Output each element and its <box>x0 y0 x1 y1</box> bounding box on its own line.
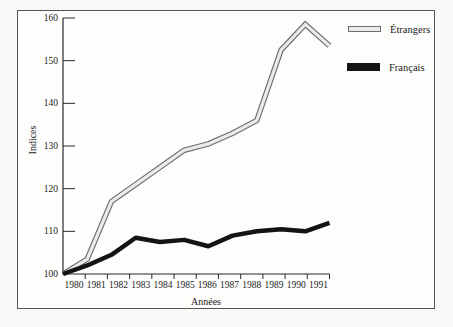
y-tick-label: 100 <box>44 269 59 279</box>
y-tick-label: 130 <box>44 141 59 151</box>
legend-label-etrangers: Étrangers <box>390 24 430 35</box>
x-tick-label: 1988 <box>242 280 261 290</box>
chart-canvas: 1001101201301401501601980198119821983198… <box>0 0 453 327</box>
x-axis-title: Années <box>191 296 221 307</box>
x-tick-label: 1984 <box>153 280 172 290</box>
series-line-francais <box>63 223 330 274</box>
x-tick-label: 1983 <box>131 280 150 290</box>
legend-label-francais: Français <box>389 62 425 73</box>
x-tick-label: 1991 <box>309 280 328 290</box>
y-tick-label: 120 <box>44 184 59 194</box>
x-tick-label: 1985 <box>176 280 195 290</box>
legend-item-francais: Français <box>347 60 425 74</box>
chart-figure: 1001101201301401501601980198119821983198… <box>0 0 453 327</box>
series-line-etrangers-outline <box>63 24 330 274</box>
x-tick-label: 1989 <box>264 280 283 290</box>
y-axis-title: Indices <box>27 126 38 155</box>
x-tick-label: 1982 <box>109 280 128 290</box>
x-tick-label: 1986 <box>198 280 217 290</box>
y-tick-label: 150 <box>44 56 59 66</box>
x-tick-label: 1980 <box>65 280 84 290</box>
francais-line-swatch <box>347 63 380 71</box>
y-tick-label: 110 <box>44 226 58 236</box>
etrangers-line-swatch <box>348 26 381 32</box>
y-tick-label: 140 <box>44 98 59 108</box>
x-tick-label: 1981 <box>87 280 106 290</box>
y-tick-label: 160 <box>44 13 59 23</box>
x-tick-label: 1987 <box>220 280 239 290</box>
legend-item-etrangers: Étrangers <box>348 22 430 36</box>
x-tick-label: 1990 <box>287 280 306 290</box>
